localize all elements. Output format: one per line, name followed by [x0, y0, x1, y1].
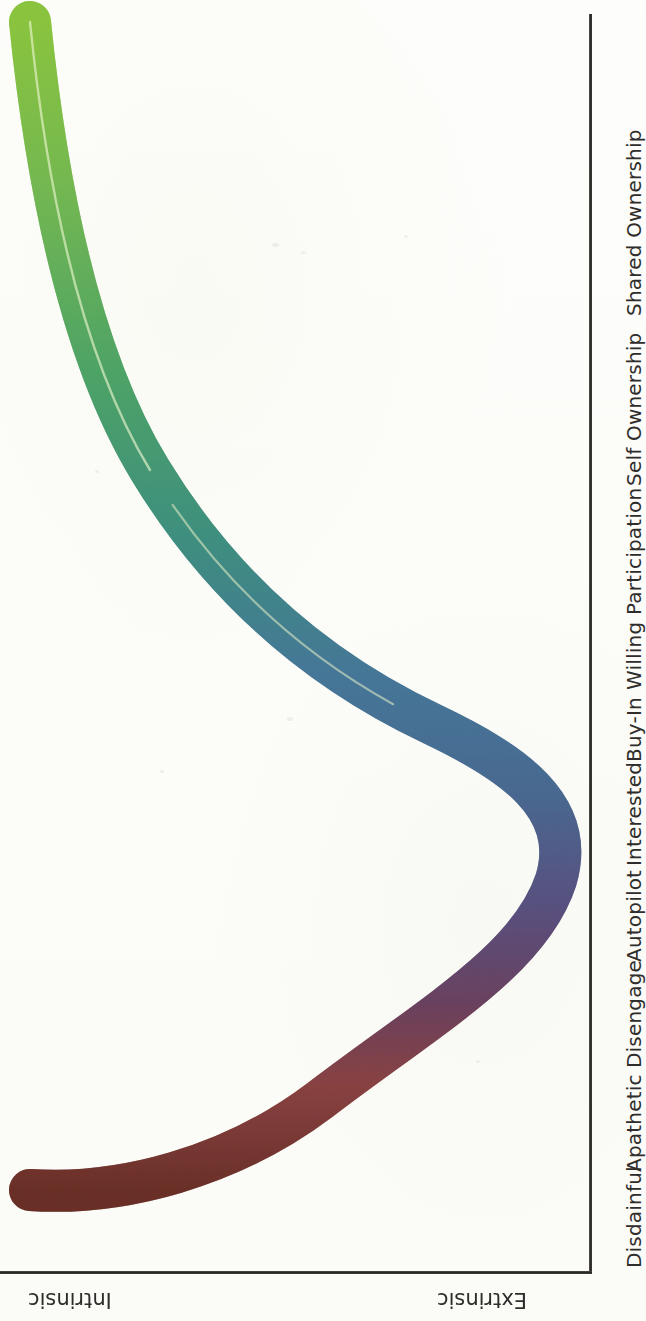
category-label-interested: Interested: [622, 762, 646, 866]
category-label-buy-in: Buy-In: [622, 697, 646, 762]
axis-title-intrinsic: Intrinsic: [28, 1288, 112, 1312]
category-label-disengage: Disengage: [622, 960, 646, 1068]
axis-title-extrinsic: Extrinsic: [437, 1288, 527, 1312]
category-label-apathetic: Apathetic: [622, 1074, 646, 1172]
category-label-autopilot: Autopilot: [622, 870, 646, 962]
figure-canvas: Disdainful Apathetic Disengage Autopilot…: [0, 0, 646, 1321]
category-axis-labels: Disdainful Apathetic Disengage Autopilot…: [0, 0, 646, 1321]
category-label-disdainful: Disdainful: [622, 1166, 646, 1268]
category-label-self-ownership: Self Ownership: [622, 333, 646, 486]
category-label-shared-ownership: Shared Ownership: [622, 129, 646, 316]
category-label-willing-participation: Willing Participation: [622, 488, 646, 690]
